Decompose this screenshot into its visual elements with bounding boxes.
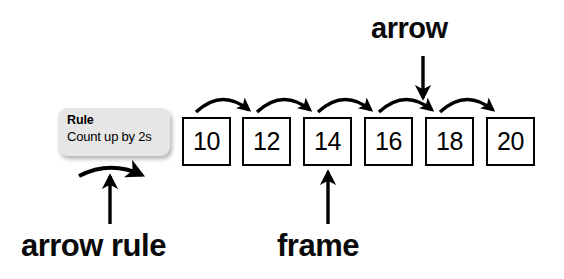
callout-label-frame: frame — [277, 228, 359, 264]
frame-box: 14 — [303, 117, 352, 166]
count-arrow — [440, 99, 493, 112]
diagram-canvas: Rule Count up by 2s 10 12 14 16 18 20 — [0, 0, 564, 279]
arrow-rule-example-arrow — [79, 168, 142, 176]
frame-box: 10 — [182, 117, 231, 166]
rule-card-title: Rule — [67, 113, 170, 128]
frame-box: 20 — [486, 117, 535, 166]
count-arrow — [257, 99, 310, 112]
count-arrow — [318, 99, 371, 112]
rule-card: Rule Count up by 2s — [58, 108, 170, 156]
frame-box: 16 — [364, 117, 413, 166]
count-arrow — [379, 99, 432, 112]
count-arrow — [196, 99, 249, 112]
callout-label-arrow-rule: arrow rule — [21, 228, 166, 264]
callout-label-arrow: arrow — [371, 12, 447, 45]
frame-box: 12 — [242, 117, 291, 166]
rule-card-body: Count up by 2s — [67, 129, 170, 145]
frame-box: 18 — [425, 117, 474, 166]
